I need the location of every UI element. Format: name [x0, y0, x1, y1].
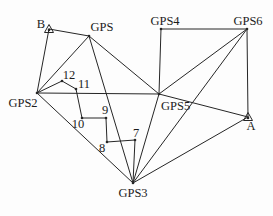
node-label-8: 8 [99, 141, 105, 155]
node-label-11: 11 [78, 77, 90, 91]
gps-network-diagram: BGPSGPS4GPS6GPS2GPS5AGPS3121110987 [0, 0, 273, 216]
node-label-7: 7 [133, 126, 139, 140]
edge-B-GPS2 [37, 29, 49, 93]
node-label-GPS2: GPS2 [8, 96, 37, 110]
node-label-GPS4: GPS4 [150, 14, 180, 28]
node-8 [106, 141, 109, 144]
node-11 [75, 88, 78, 91]
edge-GPS2-GPS3 [37, 93, 133, 183]
edge-GPS2-GPS5 [37, 93, 159, 94]
node-GPS6 [246, 28, 249, 31]
node-GPS2 [36, 92, 39, 95]
edge-GPS2-12 [37, 81, 62, 93]
edge-GPS3-A [133, 117, 248, 183]
edge-GPS6-A [247, 29, 248, 117]
node-label-GPS: GPS [91, 20, 114, 34]
node-9 [105, 117, 108, 120]
network-svg: BGPSGPS4GPS6GPS2GPS5AGPS3121110987 [0, 0, 273, 216]
node-GPS3 [132, 182, 135, 185]
node-GPS [88, 35, 91, 38]
node-GPS5 [158, 93, 161, 96]
node-label-GPS5: GPS5 [161, 99, 190, 113]
node-label-A: A [246, 119, 255, 133]
edge-GPS-GPS3 [89, 36, 133, 183]
node-B [48, 29, 51, 32]
node-GPS4 [160, 28, 163, 31]
edge-12-11 [62, 81, 76, 89]
edge-GPS4-GPS5 [159, 29, 161, 94]
node-label-GPS6: GPS6 [233, 14, 262, 28]
node-label-GPS3: GPS3 [118, 186, 147, 200]
edge-GPS-GPS5 [89, 36, 159, 94]
node-label-B: B [37, 17, 45, 31]
node-label-9: 9 [102, 103, 108, 117]
node-label-12: 12 [63, 68, 76, 82]
edge-B-GPS [49, 29, 89, 36]
edges-layer [37, 29, 248, 183]
node-label-10: 10 [72, 117, 85, 131]
edge-9-8 [106, 118, 107, 142]
edge-GPS5-GPS6 [159, 29, 247, 94]
